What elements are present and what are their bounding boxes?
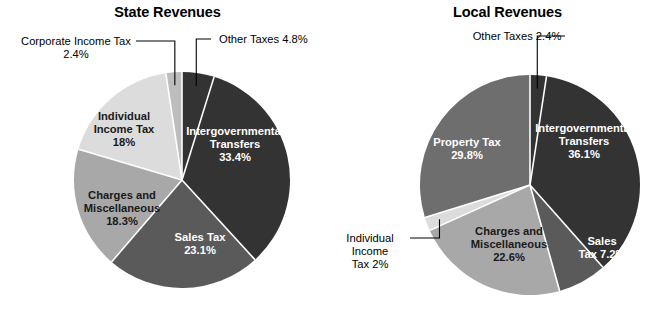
- chart-panel-local-revenues: Local Revenues Other Taxes 2.4%Intergove…: [332, 0, 663, 311]
- chart-panel-state-revenues: State Revenues Other Taxes 4.8%Intergove…: [0, 0, 331, 311]
- callout-label: Corporate Income Tax2.4%: [21, 35, 131, 60]
- pie-chart-local-revenues: Other Taxes 2.4%IntergovernmentalTransfe…: [332, 0, 663, 311]
- pie-chart-state-revenues: Other Taxes 4.8%IntergovernmentalTransfe…: [0, 0, 331, 311]
- callout-label: IndividualIncomeTax 2%: [346, 232, 393, 270]
- figure-root: State Revenues Other Taxes 4.8%Intergove…: [0, 0, 663, 311]
- callout-label: Other Taxes 4.8%: [219, 33, 308, 45]
